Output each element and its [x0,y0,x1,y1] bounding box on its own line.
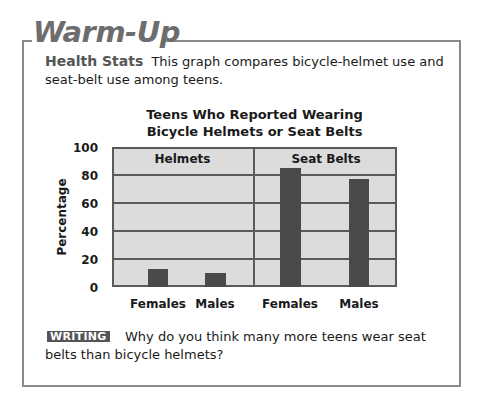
y-axis-label: Percentage [55,177,69,257]
intro-lead: Health Stats [45,53,143,69]
x-label-helmets-males: Males [185,297,245,311]
chart-title-line-1: Teens Who Reported Wearing [112,106,397,123]
y-tick-60: 60 [70,197,98,211]
bar-helmets-males [205,273,226,287]
chart-title-line-2: Bicycle Helmets or Seat Belts [112,123,397,140]
writing-question: Why do you think many more teens wear se… [45,328,445,364]
x-label-seat-belts-males: Males [329,297,389,311]
y-tick-0: 0 [70,281,98,295]
panel-label-helmets: Helmets [112,152,253,166]
x-label-seat-belts-females: Females [260,297,320,311]
bar-seat-belts-males [349,179,369,287]
y-tick-80: 80 [70,169,98,183]
y-tick-100: 100 [70,141,98,155]
y-tick-20: 20 [70,253,98,267]
intro-paragraph: Health Stats This graph compares bicycle… [45,52,445,89]
x-label-helmets-females: Females [128,297,188,311]
bar-helmets-females [148,269,168,287]
chart-title: Teens Who Reported Wearing Bicycle Helme… [112,106,397,140]
panel-label-seat-belts: Seat Belts [255,152,397,166]
y-tick-40: 40 [70,225,98,239]
panel-divider [253,147,255,287]
warmup-title: Warm-Up [33,16,180,48]
bar-seat-belts-females [280,168,301,287]
